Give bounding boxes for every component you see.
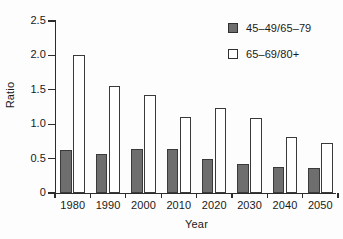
legend-label-2: 65–69/80+	[246, 48, 299, 60]
bar-2020-series2	[215, 108, 227, 193]
y-axis-tick-label: 2.0	[8, 49, 46, 60]
y-axis-tick-mark	[48, 89, 55, 90]
bar-2040-series2	[286, 137, 298, 193]
bar-1980-series1	[60, 150, 72, 193]
legend-label-1: 45–49/65–79	[246, 22, 311, 34]
bar-1990-series2	[109, 86, 121, 193]
x-axis-tick-mark	[54, 193, 55, 198]
x-axis-tick-mark	[161, 193, 162, 198]
y-axis-tick-label: 0.5	[8, 153, 46, 164]
y-axis-tick-label: 0	[8, 187, 46, 198]
x-axis-tick-mark	[302, 193, 303, 198]
x-axis-tick-mark	[267, 193, 268, 198]
x-axis-tick-mark	[231, 193, 232, 198]
bar-1980-series2	[73, 55, 85, 193]
y-axis-tick-label: 1.0	[8, 118, 46, 129]
bar-2040-series1	[273, 167, 285, 193]
bar-2030-series2	[250, 118, 262, 193]
y-axis-tick-mark	[48, 55, 55, 56]
bar-2050-series2	[321, 143, 333, 193]
bar-2010-series1	[167, 149, 179, 193]
y-axis-tick-mark	[48, 158, 55, 159]
x-axis-tick-mark	[196, 193, 197, 198]
chart-legend: 45–49/65–7965–69/80+	[228, 18, 311, 70]
y-axis-tick-label: 2.5	[8, 15, 46, 26]
legend-swatch-filled	[228, 23, 238, 33]
x-axis-title-label: Year	[185, 218, 208, 230]
legend-item-2: 65–69/80+	[228, 44, 311, 64]
x-axis-tick-label-2050: 2050	[299, 200, 341, 211]
x-axis-tick-mark	[337, 193, 338, 198]
legend-swatch-hollow	[228, 49, 238, 59]
bar-2000-series1	[131, 149, 143, 193]
bar-2030-series1	[237, 164, 249, 193]
y-axis-tick-mark	[48, 124, 55, 125]
bar-2020-series1	[202, 159, 214, 193]
bar-1990-series1	[96, 154, 108, 193]
bar-chart-figure: Ratio 00.51.01.52.02.5 19801990200020102…	[0, 0, 343, 239]
x-axis-tick-mark	[90, 193, 91, 198]
y-axis-tick-mark	[48, 20, 55, 21]
x-axis-tick-mark	[125, 193, 126, 198]
bar-2010-series2	[180, 117, 192, 193]
bar-2000-series2	[144, 95, 156, 193]
bar-2050-series1	[308, 168, 320, 193]
x-axis-title: Year	[55, 218, 338, 230]
y-axis-tick-label: 1.5	[8, 84, 46, 95]
legend-item-1: 45–49/65–79	[228, 18, 311, 38]
